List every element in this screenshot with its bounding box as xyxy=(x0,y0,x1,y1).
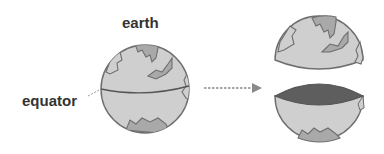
earth-split-diagram xyxy=(0,0,384,154)
arrow-right-icon xyxy=(204,83,262,93)
equator-pointer xyxy=(88,89,101,96)
northern-hemisphere-icon xyxy=(275,16,363,69)
globe-icon xyxy=(101,44,192,134)
southern-hemisphere-icon xyxy=(275,84,364,142)
